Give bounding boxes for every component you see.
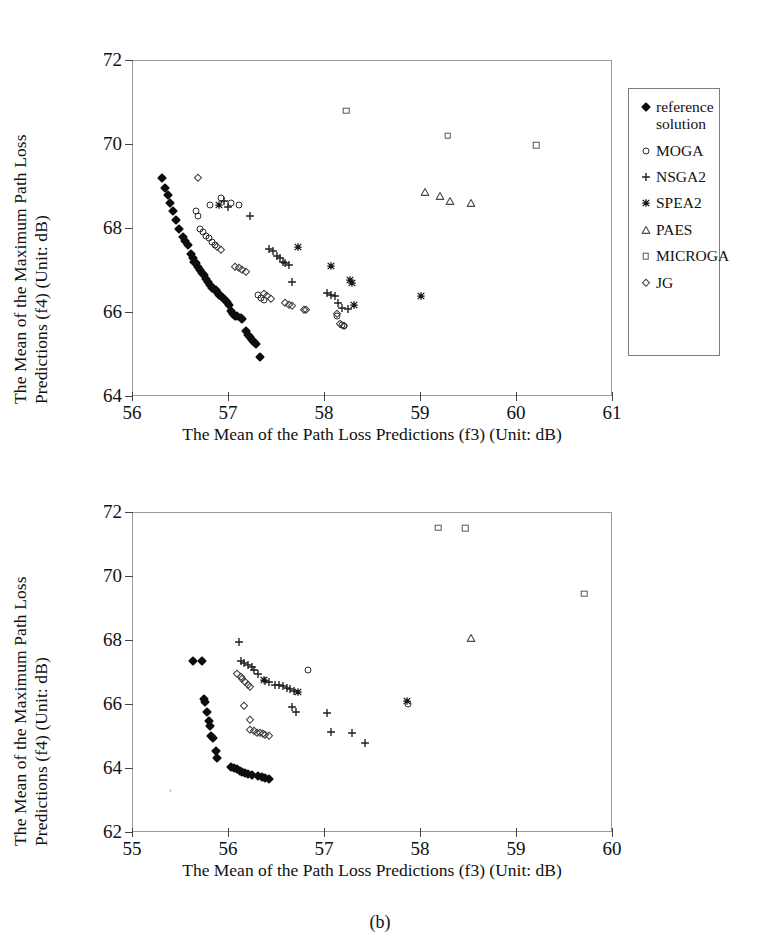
y-tick-mark: [125, 312, 133, 313]
marker-open-diamond-icon: [242, 267, 251, 276]
y-tick-label: 64: [78, 757, 122, 779]
marker-plus-icon: [292, 708, 301, 717]
legend-marker-jg: [638, 274, 653, 291]
x-tick-mark: [228, 828, 229, 837]
y-axis-title-line1: The Mean of the Maximum Path Loss: [10, 134, 31, 404]
marker-filled-diamond-icon: [197, 657, 207, 667]
x-tick-mark: [324, 392, 325, 401]
marker-asterisk-icon: [641, 199, 650, 208]
x-tick-label: 55: [123, 838, 142, 860]
x-tick-mark: [516, 828, 517, 837]
y-tick-label: 68: [78, 217, 122, 239]
y-axis-title-a: The Mean of the Maximum Path Loss Predic…: [10, 134, 52, 404]
x-tick-label: 60: [507, 402, 526, 424]
legend-item-spea2: SPEA2: [638, 194, 712, 211]
marker-filled-diamond-icon: [202, 707, 212, 717]
x-tick-mark: [516, 392, 517, 401]
marker-open-circle-icon: [206, 201, 213, 208]
data-points-b: [133, 513, 611, 831]
marker-filled-diamond-icon: [171, 215, 181, 225]
x-tick-label: 60: [603, 838, 622, 860]
legend-marker-moga: [638, 142, 653, 159]
scan-artifact: [169, 789, 172, 792]
marker-open-triangle-icon: [436, 192, 445, 200]
marker-open-circle-icon: [304, 667, 311, 674]
legend-item-jg: JG: [638, 274, 712, 291]
y-tick-label: 72: [78, 501, 122, 523]
legend-item-microga: MICROGA: [638, 247, 712, 264]
marker-plus-icon: [284, 261, 293, 270]
x-tick-mark: [612, 392, 613, 401]
x-tick-mark: [132, 828, 133, 837]
chart-panel-a: The Mean of the Maximum Path Loss Predic…: [0, 0, 760, 470]
x-tick-label: 57: [219, 402, 238, 424]
x-tick-mark: [612, 828, 613, 837]
y-tick-mark: [125, 512, 133, 513]
marker-open-diamond-icon: [288, 302, 297, 311]
y-tick-label: 62: [78, 821, 122, 843]
legend-item-nsga2: NSGA2: [638, 168, 712, 185]
marker-open-circle-icon: [195, 213, 202, 220]
marker-open-diamond-icon: [194, 173, 203, 182]
marker-plus-icon: [234, 638, 243, 647]
marker-open-square-icon: [445, 132, 452, 139]
marker-plus-icon: [641, 173, 650, 182]
y-tick-mark: [125, 768, 133, 769]
legend-a: reference solutionMOGANSGA2SPEA2PAESMICR…: [628, 88, 720, 356]
y-tick-mark: [125, 60, 133, 61]
marker-open-diamond-icon: [265, 732, 274, 741]
legend-marker-microga: [638, 247, 653, 264]
marker-plus-icon: [347, 728, 356, 737]
marker-asterisk-icon: [294, 242, 303, 251]
x-axis-title-b: The Mean of the Path Loss Predictions (f…: [132, 860, 612, 881]
x-tick-label: 57: [315, 838, 334, 860]
x-tick-label: 59: [507, 838, 526, 860]
chart-panel-b: The Mean of the Maximum Path Loss Predic…: [0, 470, 760, 900]
y-tick-mark: [125, 144, 133, 145]
y-tick-mark: [125, 576, 133, 577]
marker-asterisk-icon: [417, 292, 426, 301]
marker-open-circle-icon: [642, 147, 649, 154]
x-tick-mark: [420, 392, 421, 401]
x-tick-mark: [324, 828, 325, 837]
marker-asterisk-icon: [349, 301, 358, 310]
legend-label-jg: JG: [656, 274, 673, 291]
marker-open-diamond-icon: [240, 701, 249, 710]
marker-plus-icon: [326, 727, 335, 736]
legend-marker-refsol: [638, 98, 653, 115]
marker-asterisk-icon: [402, 696, 411, 705]
marker-filled-diamond-icon: [157, 173, 167, 183]
marker-open-square-icon: [462, 525, 469, 532]
y-tick-mark: [125, 640, 133, 641]
marker-asterisk-icon: [326, 261, 335, 270]
marker-open-diamond-icon: [246, 716, 255, 725]
marker-plus-icon: [322, 709, 331, 718]
marker-open-triangle-icon: [641, 226, 650, 234]
y-tick-mark: [125, 228, 133, 229]
marker-filled-diamond-icon: [213, 753, 223, 763]
marker-plus-icon: [288, 277, 297, 286]
marker-open-triangle-icon: [445, 197, 454, 205]
y-axis-title-line1: The Mean of the Maximum Path Loss: [10, 576, 31, 846]
y-tick-label: 70: [78, 133, 122, 155]
marker-filled-diamond-icon: [237, 314, 247, 324]
marker-filled-diamond-icon: [641, 102, 651, 112]
x-tick-label: 61: [603, 402, 622, 424]
x-tick-label: 56: [219, 838, 238, 860]
marker-asterisk-icon: [347, 278, 356, 287]
legend-item-refsol: reference solution: [638, 98, 712, 133]
marker-open-triangle-icon: [466, 634, 475, 642]
legend-marker-spea2: [638, 194, 653, 211]
plot-area-b: [132, 512, 612, 832]
marker-open-square-icon: [581, 590, 588, 597]
y-tick-label: 68: [78, 629, 122, 651]
x-tick-label: 59: [411, 402, 430, 424]
legend-label-nsga2: NSGA2: [656, 168, 706, 185]
marker-open-diamond-icon: [267, 294, 276, 303]
marker-asterisk-icon: [259, 676, 268, 685]
legend-item-paes: PAES: [638, 221, 712, 238]
y-axis-title-line2: Predictions (f4) (Unit: dB): [31, 576, 52, 846]
marker-open-triangle-icon: [420, 188, 429, 196]
x-tick-mark: [228, 392, 229, 401]
x-axis-title-a: The Mean of the Path Loss Predictions (f…: [132, 424, 612, 445]
